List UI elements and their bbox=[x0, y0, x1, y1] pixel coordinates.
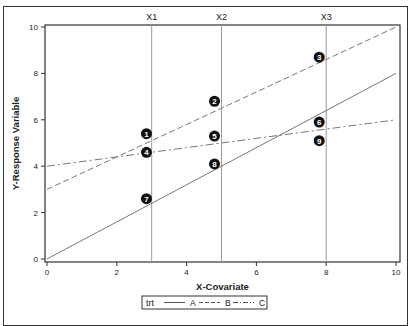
y-tick-label: 6 bbox=[34, 116, 39, 125]
marker-label-9: 9 bbox=[317, 137, 322, 146]
plot-area bbox=[45, 25, 400, 262]
y-tick-label: 4 bbox=[34, 162, 39, 171]
marker-label-8: 8 bbox=[212, 160, 217, 169]
x-tick-label: 8 bbox=[324, 268, 329, 277]
x-tick-label: 0 bbox=[45, 268, 50, 277]
y-tick-label: 8 bbox=[34, 69, 39, 78]
reference-label-x1: X1 bbox=[146, 12, 157, 22]
legend bbox=[142, 296, 267, 309]
y-tick-label: 10 bbox=[29, 23, 38, 32]
legend-entry-a: A bbox=[190, 298, 196, 308]
legend-title: trt bbox=[146, 298, 154, 308]
x-tick-label: 10 bbox=[392, 268, 401, 277]
marker-label-6: 6 bbox=[317, 118, 322, 127]
legend-entry-b: B bbox=[225, 298, 231, 308]
y-tick-label: 0 bbox=[34, 255, 39, 264]
marker-label-5: 5 bbox=[212, 132, 217, 141]
marker-label-2: 2 bbox=[212, 97, 217, 106]
x-tick-label: 6 bbox=[254, 268, 259, 277]
reference-label-x3: X3 bbox=[321, 12, 332, 22]
x-axis-label: X-Covariate bbox=[196, 281, 249, 292]
marker-label-4: 4 bbox=[144, 148, 149, 157]
x-tick-label: 2 bbox=[115, 268, 120, 277]
marker-label-7: 7 bbox=[144, 195, 149, 204]
x-tick-label: 4 bbox=[184, 268, 189, 277]
y-axis-label: Y-Response Variable bbox=[10, 97, 21, 190]
marker-label-3: 3 bbox=[317, 53, 322, 62]
reference-label-x2: X2 bbox=[216, 12, 227, 22]
y-tick-label: 2 bbox=[34, 209, 39, 218]
legend-entry-c: C bbox=[259, 298, 265, 308]
marker-label-1: 1 bbox=[144, 130, 149, 139]
